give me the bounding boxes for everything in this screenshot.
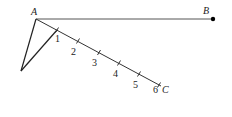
tick-label-4: 4 — [113, 68, 118, 79]
geometry-diagram: A B C 1 2 3 4 5 6 — [0, 0, 232, 117]
label-A: A — [30, 6, 38, 17]
label-B: B — [203, 5, 209, 16]
tick-label-2: 2 — [71, 46, 76, 57]
tick-label-5: 5 — [133, 79, 138, 90]
label-C: C — [162, 84, 169, 95]
tick-label-3: 3 — [92, 57, 97, 68]
point-B — [211, 17, 215, 21]
tick-label-1: 1 — [55, 33, 60, 44]
tick-label-6: 6 — [153, 84, 158, 95]
